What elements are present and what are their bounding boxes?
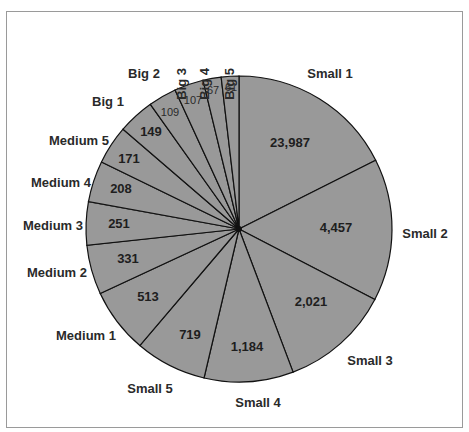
value-label: 251	[108, 216, 130, 231]
category-label: Small 4	[235, 395, 281, 410]
value-label: 109	[161, 106, 179, 118]
category-label: Medium 5	[49, 133, 109, 148]
value-label: 149	[140, 124, 162, 139]
category-label: Big 1	[92, 94, 124, 109]
category-label: Big 4	[197, 67, 212, 100]
category-label: Small 3	[347, 353, 393, 368]
value-label: 513	[137, 289, 159, 304]
category-label: Medium 1	[56, 328, 116, 343]
value-label: 2,021	[295, 294, 328, 309]
category-label: Small 1	[307, 66, 353, 81]
category-label: Big 2	[128, 66, 160, 81]
value-label: 23,987	[270, 135, 310, 150]
category-label: Big 3	[174, 68, 189, 100]
category-label: Small 2	[402, 226, 448, 241]
value-label: 719	[179, 327, 201, 342]
category-label: Small 5	[127, 381, 173, 396]
value-label: 4,457	[320, 220, 353, 235]
value-label: 171	[118, 151, 140, 166]
value-label: 331	[117, 251, 139, 266]
pie-center	[236, 226, 242, 232]
category-label: Big 5	[222, 68, 237, 100]
category-label: Medium 3	[23, 218, 83, 233]
category-label: Medium 2	[27, 265, 87, 280]
value-label: 1,184	[231, 339, 264, 354]
value-label: 208	[110, 181, 132, 196]
pie-chart: 23,9874,4572,0211,1847195133312512081711…	[0, 0, 469, 432]
category-label: Medium 4	[31, 175, 92, 190]
